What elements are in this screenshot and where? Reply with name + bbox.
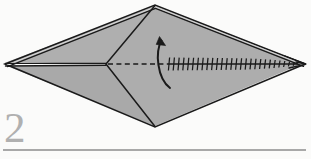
caption-divider [3,149,306,151]
origami-step-diagram: 2 [0,0,311,159]
left-spike-lines [6,63,107,66]
step-number: 2 [4,104,44,152]
origami-figure [0,0,311,159]
left-spike-bottom-edge [6,65,107,66]
